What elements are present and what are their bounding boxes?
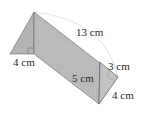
- triangular-prism-diagram: 13 cm 4 cm 5 cm 3 cm 4 cm: [0, 0, 143, 116]
- label-base-left: 4 cm: [13, 56, 35, 68]
- label-height: 5 cm: [72, 72, 94, 84]
- label-side-3: 3 cm: [108, 60, 130, 72]
- label-side-4: 4 cm: [112, 89, 134, 101]
- label-hypotenuse: 13 cm: [76, 26, 103, 38]
- left-triangle-face: [10, 12, 34, 54]
